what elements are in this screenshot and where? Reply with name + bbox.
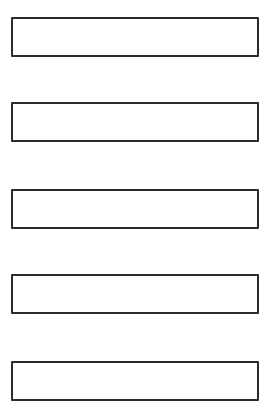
answer-box-2[interactable]	[11, 102, 259, 142]
answer-box-3[interactable]	[11, 189, 259, 229]
answer-box-4[interactable]	[11, 274, 259, 314]
answer-box-5[interactable]	[11, 361, 259, 401]
answer-box-1[interactable]	[11, 17, 259, 57]
